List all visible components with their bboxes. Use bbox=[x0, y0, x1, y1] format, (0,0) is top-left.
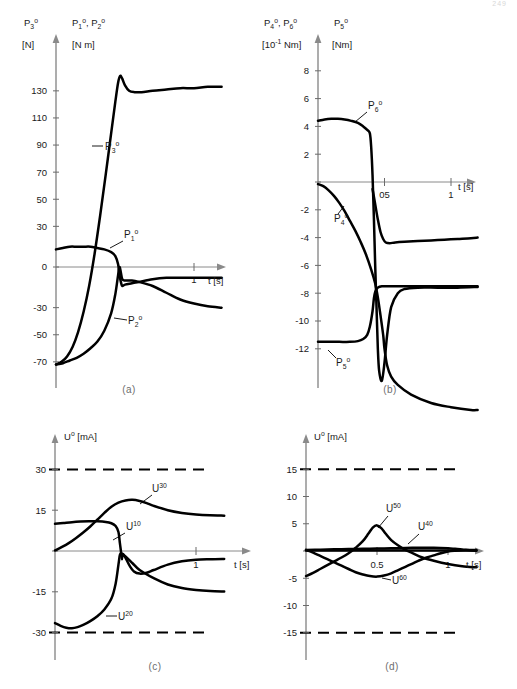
chart-panel-c: 3015-15-30 1 Uo [mA] t [s] U30 U10 U20 (… bbox=[0, 420, 258, 689]
leader-u60 bbox=[382, 578, 391, 580]
curve-label-p1-text: P1o bbox=[124, 228, 138, 242]
curve-label-u50-text: U50 bbox=[386, 502, 401, 514]
y-tick-label: 110 bbox=[32, 112, 47, 123]
x-axis-title-d: t [s] bbox=[466, 559, 481, 570]
curve-label-p5: P5o bbox=[328, 350, 350, 370]
y-axis-symbol-a-left: P3o bbox=[24, 17, 38, 30]
x-axis-arrow-a bbox=[217, 264, 226, 271]
y-tick-label: 130 bbox=[31, 85, 47, 96]
y-axis-arrow-a bbox=[53, 34, 60, 43]
y-tick-label: 50 bbox=[36, 194, 47, 205]
curve-label-p4-text: P4o bbox=[334, 212, 348, 226]
y-axis-symbol-d: Uo [mA] bbox=[314, 430, 347, 442]
y-axis-symbol-b-left: P4o, P6o bbox=[264, 17, 297, 30]
y-tick-label: -5 bbox=[289, 573, 297, 584]
y-tick-label: -70 bbox=[33, 356, 47, 367]
y-tick-label: -30 bbox=[33, 302, 47, 313]
leader-p6 bbox=[355, 112, 367, 122]
y-axis-title-d: Uo [mA] bbox=[314, 430, 347, 442]
y-axis-title-b-right: P5o [Nm] bbox=[332, 17, 352, 50]
x-tick-label: 05 bbox=[379, 189, 390, 200]
leader-p2 bbox=[114, 318, 127, 320]
y-tick-label: -15 bbox=[283, 627, 297, 638]
y-axis-unit-a-left: [N] bbox=[22, 39, 34, 50]
y-axis-arrow-d bbox=[303, 434, 310, 443]
y-tick-label: -6 bbox=[301, 260, 309, 271]
x-tick-label: 1 bbox=[191, 274, 196, 285]
y-tick-label: -15 bbox=[32, 586, 46, 597]
chart-panel-b: 8642-2-4-6-8-10-12 051 P4o, P6o [10-1 Nm… bbox=[258, 0, 517, 420]
leader-u50 bbox=[378, 516, 388, 528]
y-axis-unit-a-right: [N m] bbox=[72, 39, 95, 50]
curve-label-u20-text: U20 bbox=[118, 610, 133, 622]
y-tick-label: -30 bbox=[32, 627, 46, 638]
chart-d-svg: 15105-5-10-15 0.51 Uo [mA] t [s] U50 U40… bbox=[258, 420, 517, 689]
y-tick-label: 8 bbox=[304, 65, 309, 76]
y-axis-symbol-b-right: P5o bbox=[334, 17, 348, 30]
y-ticks-a: 130110907050300-30-50-70 bbox=[31, 85, 59, 367]
y-axis-title-b-left: P4o, P6o [10-1 Nm] bbox=[262, 17, 301, 50]
curves-d bbox=[306, 525, 476, 576]
y-tick-label: 30 bbox=[36, 221, 47, 232]
figure-page: 249 130110907050300-30-50-70 1 P3o [N] P… bbox=[0, 0, 517, 689]
y-axis-arrow-b bbox=[315, 34, 322, 43]
leader-p5 bbox=[328, 350, 336, 358]
caption-c: (c) bbox=[148, 661, 161, 672]
x-axis-title-a: t [s] bbox=[208, 275, 223, 286]
curve-label-p4: P4o bbox=[334, 206, 348, 226]
curve-label-p2-text: P2o bbox=[128, 314, 142, 328]
curve-label-p5-text: P5o bbox=[336, 356, 350, 370]
y-axis-unit-b-right: [Nm] bbox=[332, 39, 352, 50]
x-axis-title-b: t [s] bbox=[458, 181, 473, 192]
curve-label-p1: P1o bbox=[110, 228, 138, 248]
curve-label-u20: U20 bbox=[106, 610, 133, 622]
curve-label-p2: P2o bbox=[114, 314, 142, 328]
y-axis-title-a-right: P1o, P2o [N m] bbox=[72, 17, 105, 50]
y-tick-label: -4 bbox=[301, 232, 309, 243]
caption-a: (a) bbox=[122, 384, 136, 395]
chart-b-axes bbox=[315, 34, 476, 388]
y-tick-label: 0 bbox=[42, 261, 47, 272]
curve-label-u40: U40 bbox=[408, 520, 433, 544]
x-ticks-a: 1 bbox=[191, 263, 196, 285]
curve-label-p6: P6o bbox=[355, 99, 382, 122]
caption-b: (b) bbox=[383, 384, 397, 395]
y-axis-unit-b-left: [10-1 Nm] bbox=[262, 38, 301, 50]
y-tick-label: 30 bbox=[35, 464, 46, 475]
y-tick-label: -10 bbox=[283, 600, 297, 611]
y-tick-label: -10 bbox=[295, 315, 309, 326]
chart-c-svg: 3015-15-30 1 Uo [mA] t [s] U30 U10 U20 (… bbox=[0, 420, 258, 689]
y-axis-symbol-a-right: P1o, P2o bbox=[72, 17, 105, 30]
y-ticks-b: 8642-2-4-6-8-10-12 bbox=[295, 65, 321, 354]
y-tick-label: -2 bbox=[301, 204, 309, 215]
curve-label-p3: P3o bbox=[92, 140, 119, 154]
y-tick-label: 15 bbox=[286, 464, 297, 475]
curve-U20 bbox=[55, 554, 224, 629]
y-tick-label: 10 bbox=[286, 491, 297, 502]
y-tick-label: -12 bbox=[295, 343, 309, 354]
caption-d: (d) bbox=[385, 661, 399, 672]
y-tick-label: 90 bbox=[36, 139, 47, 150]
curve-label-u30-text: U30 bbox=[152, 482, 167, 494]
chart-b-svg: 8642-2-4-6-8-10-12 051 P4o, P6o [10-1 Nm… bbox=[258, 0, 517, 420]
leader-p1 bbox=[110, 241, 123, 248]
curve-label-u50: U50 bbox=[378, 502, 401, 528]
y-tick-label: 2 bbox=[304, 149, 309, 160]
y-tick-label: -8 bbox=[301, 288, 309, 299]
curve-P3° bbox=[56, 76, 222, 365]
curve-label-u40-text: U40 bbox=[418, 520, 433, 532]
curve-label-u30: U30 bbox=[140, 482, 167, 504]
y-tick-label: -50 bbox=[33, 329, 47, 340]
chart-a-svg: 130110907050300-30-50-70 1 P3o [N] P1o, … bbox=[0, 0, 258, 420]
x-tick-label: 1 bbox=[448, 189, 453, 200]
y-tick-label: 6 bbox=[304, 93, 309, 104]
curve-U10 bbox=[55, 521, 224, 573]
y-tick-label: 4 bbox=[304, 121, 309, 132]
y-axis-title-a-left: P3o [N] bbox=[22, 17, 38, 50]
curve-P1° bbox=[56, 247, 222, 286]
y-axis-title-c: Uo [mA] bbox=[64, 430, 97, 442]
chart-panel-a: 130110907050300-30-50-70 1 P3o [N] P1o, … bbox=[0, 0, 258, 420]
curve-label-u60-text: U60 bbox=[392, 574, 407, 586]
curve-label-p6-text: P6o bbox=[368, 99, 382, 113]
chart-panel-d: 15105-5-10-15 0.51 Uo [mA] t [s] U50 U40… bbox=[258, 420, 517, 689]
